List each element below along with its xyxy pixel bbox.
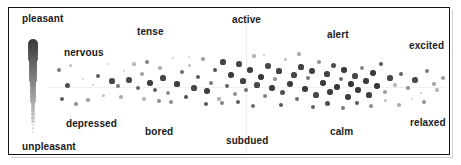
scatter-point [320,80,325,85]
scatter-point [441,76,445,80]
scatter-point [327,89,332,94]
affect-label-tense: tense [137,26,164,37]
scatter-point [348,81,353,86]
affect-label-nervous: nervous [64,47,104,58]
scatter-point [387,75,392,80]
scatter-point [341,106,345,110]
scatter-point [102,94,105,97]
scatter-point [265,63,270,68]
scatter-point [60,97,65,102]
scatter-point [422,100,426,104]
scatter-point [284,58,287,61]
scatter-point [201,57,205,61]
axis-label-pleasant: pleasant [22,13,63,24]
scatter-point [269,85,274,90]
scatter-point [302,86,307,91]
scatter-point [204,88,209,93]
scatter-point [240,78,245,83]
scatter-point [370,70,375,75]
scatter-point [65,83,70,88]
affect-label-calm: calm [330,126,353,137]
scatter-point [123,70,126,73]
scatter-point [313,92,318,97]
scatter-point [136,86,141,91]
affect-label-depressed: depressed [66,118,117,129]
affect-label-relaxed: relaxed [410,117,446,128]
affect-label-excited: excited [409,40,444,51]
scatter-point [273,77,277,81]
scatter-point [374,83,379,88]
scatter-point [355,87,360,92]
scatter-point [254,82,259,87]
scatter-point [86,98,90,102]
scatter-point [276,68,281,73]
scatter-point [157,99,161,103]
scatter-point [412,77,417,82]
scatter-point [191,85,196,90]
scatter-point [383,90,387,94]
scatter-point [160,75,165,80]
scatter-point [325,101,330,106]
scatter-point [57,68,61,72]
scatter-point [244,88,248,92]
scatter-point [184,95,189,100]
scatter-point [311,105,316,110]
scatter-point [145,60,149,64]
scatter-point [228,72,233,77]
scatter-point [280,90,285,95]
scatter-point [379,62,384,67]
scatter-point [399,72,404,77]
scatter-point [188,64,191,67]
scatter-point [295,97,300,102]
scatter-point [334,84,339,89]
scatter-point [406,86,410,90]
affect-label-bored: bored [145,126,173,137]
scatter-point [74,102,78,106]
scatter-point [247,67,252,72]
scatter-point [119,95,122,98]
scatter-point [309,68,314,73]
scatter-point [213,68,218,73]
scatter-point [287,81,292,86]
scatter-point [126,77,131,82]
scatter-point [169,100,173,104]
scatter-point [363,78,368,83]
scatter-point [233,92,237,96]
scatter-point [360,66,364,70]
scatter-point [147,80,152,85]
scatter-point [225,84,230,89]
scatter-point [263,94,267,98]
scatter-point [82,78,85,81]
scatter-point [331,63,336,68]
scatter-point [251,104,255,108]
scatter-point [345,94,350,99]
scatter-point [432,82,435,85]
scatter-point [109,78,114,83]
scatter-point [306,76,310,80]
scatter-point [188,56,191,59]
scatter-point [153,88,158,93]
scatter-point [393,83,396,86]
scatter-point [209,81,213,85]
scatter-point [279,103,284,108]
scatter-point [291,72,296,77]
scatter-point [196,75,201,80]
scatter-point [435,88,438,91]
scatter-point [142,97,145,100]
scatter-point [420,92,423,95]
scatter-point [172,57,175,60]
scatter-point [324,71,329,76]
scatter-point [355,101,360,106]
scatter-point [297,52,300,55]
scatter-point [180,70,184,74]
scatter-point [397,103,400,106]
scatter-point [107,63,110,66]
scatter-point [158,66,161,69]
affect-label-subdued: subdued [226,135,268,146]
scatter-point [220,59,225,64]
scatter-point [132,62,135,65]
affect-label-alert: alert [327,29,349,40]
scatter-point [236,100,241,105]
scatter-point [204,102,209,107]
figure-canvas: pleasant unpleasant nervoustenseactiveal… [0,0,461,165]
